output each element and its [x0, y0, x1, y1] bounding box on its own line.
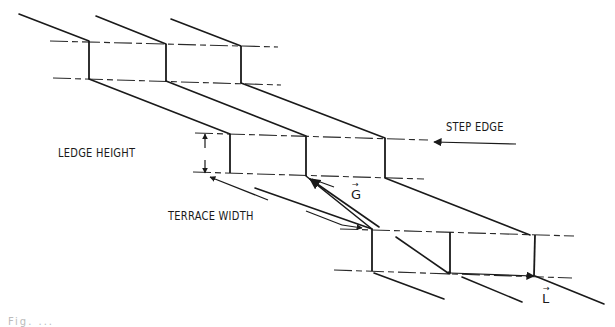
terrace-width-label: TERRACE WIDTH: [168, 209, 254, 223]
vector-mark-icon: →: [543, 285, 550, 293]
step-edge-indicator: [434, 142, 516, 144]
vector-mark-icon: →: [352, 181, 359, 189]
step-edge-label: STEP EDGE: [446, 120, 504, 134]
figure-caption-fragment: Fig. ...: [8, 316, 54, 327]
lower-tier: [334, 229, 604, 304]
vector-g-text: G: [351, 187, 361, 202]
upper-tier: [19, 14, 385, 138]
vector-g-label: → G: [351, 188, 361, 201]
ledge-height-label: LEDGE HEIGHT: [58, 146, 135, 160]
vector-l-label: → L: [542, 292, 549, 305]
vector-l-text: L: [542, 291, 549, 306]
